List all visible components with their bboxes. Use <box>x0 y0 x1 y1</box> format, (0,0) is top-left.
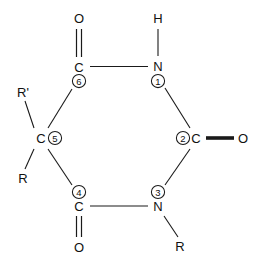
ring-number-3: 3 <box>155 187 160 198</box>
structure-svg: N 1 C 2 N 3 C 4 C 5 C 6 O <box>0 0 258 263</box>
ring-number-2: 2 <box>180 133 185 144</box>
bond-c5-r <box>25 149 34 169</box>
atom-label-c6: C <box>74 60 83 75</box>
bond-c2-n3 <box>165 149 190 185</box>
ring-number-6: 6 <box>76 76 81 87</box>
substituent-label-o-bottom: O <box>74 240 84 255</box>
chemical-structure-diagram: N 1 C 2 N 3 C 4 C 5 C 6 O <box>0 0 258 263</box>
bond-c4-c5 <box>48 149 72 185</box>
ring-number-4: 4 <box>76 187 81 198</box>
substituent-label-r-lower-left: R <box>18 171 27 186</box>
substituent-label-o-top: O <box>74 11 84 26</box>
bond-c5-c6 <box>48 89 72 128</box>
ring-number-5: 5 <box>52 133 57 144</box>
substituent-label-h-top: H <box>153 11 162 26</box>
atom-label-c2: C <box>191 131 200 146</box>
atom-label-n3: N <box>153 199 162 214</box>
bond-n3-r <box>164 216 178 237</box>
substituent-label-r-bottom: R <box>175 239 184 254</box>
atom-label-n1: N <box>153 59 162 74</box>
substituent-label-o-right: O <box>238 131 248 146</box>
bond-n1-c2 <box>165 88 190 128</box>
atom-label-c5: C <box>36 131 45 146</box>
ring-bonds <box>48 67 190 207</box>
bond-c5-rprime <box>25 101 34 128</box>
ring-atom-labels: N 1 C 2 N 3 C 4 C 5 C 6 <box>36 59 200 214</box>
ring-number-1: 1 <box>155 76 160 87</box>
substituent-label-r-prime: R' <box>17 85 29 100</box>
atom-label-c4: C <box>74 199 83 214</box>
